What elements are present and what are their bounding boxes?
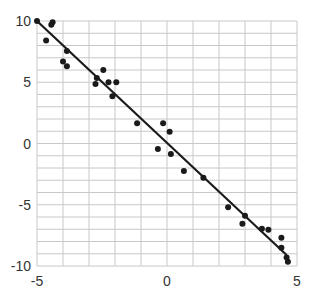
data-point bbox=[278, 235, 284, 241]
data-point bbox=[155, 146, 161, 152]
data-point bbox=[265, 227, 271, 233]
data-point bbox=[64, 48, 70, 54]
y-tick-label: 5 bbox=[23, 74, 31, 90]
y-tick-label: 10 bbox=[15, 13, 31, 29]
data-point bbox=[60, 58, 66, 64]
y-tick-label: -10 bbox=[11, 258, 31, 274]
x-tick-label: 0 bbox=[163, 273, 171, 289]
data-point bbox=[167, 129, 173, 135]
data-point bbox=[64, 63, 70, 69]
data-point bbox=[134, 120, 140, 126]
trend-line bbox=[37, 21, 287, 255]
data-point bbox=[168, 151, 174, 157]
data-point bbox=[239, 221, 245, 227]
data-point bbox=[34, 18, 40, 24]
data-point bbox=[225, 204, 231, 210]
data-point bbox=[181, 168, 187, 174]
data-point bbox=[278, 245, 284, 251]
data-point bbox=[43, 38, 49, 44]
x-tick-label: 5 bbox=[293, 273, 301, 289]
data-point bbox=[259, 226, 265, 232]
data-point bbox=[100, 67, 106, 73]
data-point bbox=[48, 22, 54, 28]
data-point bbox=[93, 81, 99, 87]
data-point bbox=[200, 175, 206, 181]
y-tick-label: -5 bbox=[19, 197, 32, 213]
data-point bbox=[160, 120, 166, 126]
data-point bbox=[285, 259, 291, 265]
x-tick-label: -5 bbox=[31, 273, 44, 289]
data-point bbox=[94, 75, 100, 81]
data-point bbox=[109, 93, 115, 99]
scatter-chart: -5051050-5-10 bbox=[0, 0, 317, 301]
y-tick-label: 0 bbox=[23, 136, 31, 152]
data-point bbox=[242, 213, 248, 219]
data-point bbox=[106, 79, 112, 85]
data-point bbox=[113, 79, 119, 85]
